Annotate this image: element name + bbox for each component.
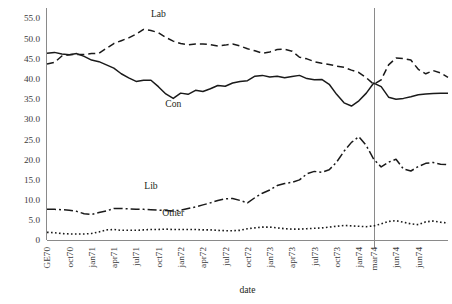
series-annotation-lib: Lib [144, 180, 158, 191]
y-tick-label: 55.0 [24, 13, 40, 23]
y-tick-label: 40.0 [24, 74, 40, 84]
series-line-lab [47, 29, 448, 84]
x-tick-label: jan73 [265, 247, 275, 269]
y-tick-label: 5.0 [29, 215, 41, 225]
x-tick-label: jun74 [414, 247, 424, 269]
x-tick-label: jun74 [391, 247, 401, 269]
x-tick-label: jan72 [176, 247, 186, 269]
x-axis-title-group: date [240, 284, 256, 295]
series-annotations: LabConLibOther [144, 8, 185, 218]
y-axis-tick-labels: 05.010.015.020.025.030.035.040.045.050.0… [24, 13, 40, 245]
series-annotation-lab: Lab [151, 8, 166, 19]
x-tick-label: apr73 [287, 247, 297, 268]
axis-lines [47, 8, 449, 241]
series-annotation-other: Other [162, 207, 185, 218]
chart-canvas: 05.010.015.020.025.030.035.040.045.050.0… [0, 0, 452, 304]
x-tick-label: mar74 [369, 247, 379, 271]
y-tick-label: 45.0 [24, 54, 40, 64]
y-tick-label: 25.0 [24, 135, 40, 145]
x-tick-label: oct72 [243, 247, 253, 268]
series-annotation-con: Con [165, 98, 181, 109]
opinion-poll-line-chart: 05.010.015.020.025.030.035.040.045.050.0… [0, 0, 452, 304]
y-tick-label: 30.0 [24, 114, 40, 124]
series-line-lib [47, 137, 448, 215]
y-tick-label: 50.0 [24, 34, 40, 44]
x-tick-label: jan71 [87, 247, 97, 269]
x-tick-label: jul71 [131, 247, 141, 267]
y-tick-label: 15.0 [24, 175, 40, 185]
series-line-con [47, 52, 448, 106]
x-axis-tick-labels: GE70oct70jan71apr71jul71oct71jan72apr72j… [42, 247, 423, 271]
x-tick-label: oct73 [332, 247, 342, 268]
x-axis-title: date [240, 284, 256, 295]
x-tick-label: oct71 [154, 247, 164, 268]
series-group [47, 29, 448, 234]
x-tick-label: GE70 [42, 247, 52, 269]
x-tick-label: apr72 [198, 247, 208, 268]
x-tick-label: jan74 [354, 247, 364, 269]
x-tick-label: jul72 [221, 247, 231, 267]
y-tick-label: 35.0 [24, 94, 40, 104]
y-tick-label: 20.0 [24, 155, 40, 165]
x-tick-label: apr71 [109, 247, 119, 268]
y-tick-label: 10.0 [24, 195, 40, 205]
y-tick-label: 0 [35, 235, 40, 245]
x-tick-label: jul73 [310, 247, 320, 267]
series-line-other [47, 221, 448, 234]
x-tick-label: oct70 [65, 247, 75, 268]
